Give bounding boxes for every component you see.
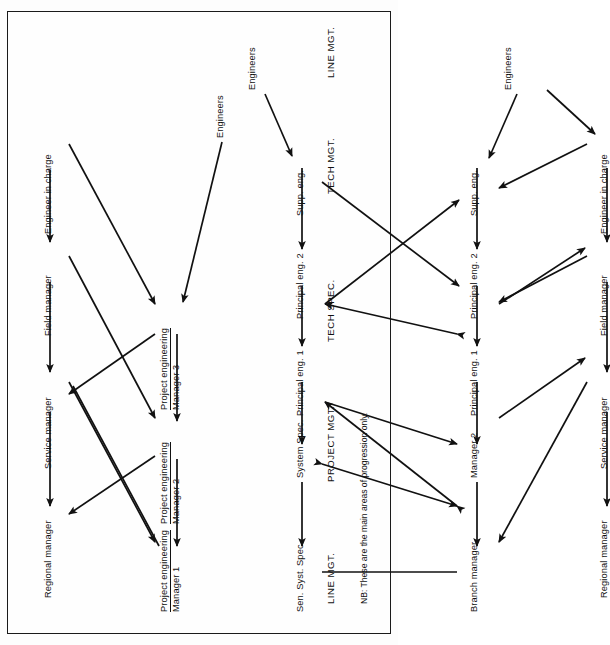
- node-label-line1: Project engineering: [159, 328, 169, 410]
- node-label-line2: Manager 1: [170, 530, 182, 612]
- node-label: Engineers: [247, 47, 257, 90]
- edge-engineers-project-to-pem3: [183, 142, 222, 302]
- node-label: Engineers: [503, 47, 513, 90]
- node-engineer-in-charge-bottom[interactable]: Engineer in charge: [599, 154, 610, 234]
- node-label: Field manager: [43, 275, 53, 336]
- node-sen-syst-spec[interactable]: Sen. Syst. Spec.: [295, 542, 306, 612]
- edge-prineng2-cross-e: [325, 200, 459, 304]
- node-engineers-tech[interactable]: Engineers: [247, 47, 258, 90]
- figure-note: NB: These are the main areas of progress…: [359, 413, 369, 604]
- node-regional-manager-top[interactable]: Regional manager: [43, 520, 54, 598]
- edge-prineng1-cross-c: [325, 402, 457, 444]
- node-principal-eng-1-tech-spec[interactable]: Principal eng. 1: [295, 350, 306, 416]
- edge-engineers-tech-to-suppengts: [265, 94, 292, 156]
- node-label-line1: Project engineering: [159, 442, 169, 524]
- node-project-engineering-manager-2[interactable]: Project engineering Manager 2: [159, 442, 182, 524]
- node-label: Service manager: [43, 397, 53, 469]
- node-label: Principal eng. 1: [469, 350, 479, 416]
- node-label: Supp. eng.: [295, 170, 305, 216]
- edge-engineersb-to-eic2: [547, 90, 595, 134]
- node-label: Supp. eng.: [469, 170, 479, 216]
- edge-sysspec-manager2-cross-a: [322, 464, 457, 506]
- edge-pem1-to-service1: [73, 386, 159, 546]
- node-label-line1: Project engineering: [159, 530, 169, 612]
- node-engineer-in-charge-top[interactable]: Engineer in charge: [43, 154, 54, 234]
- column-header-tech-mgt: TECH MGT.: [325, 138, 336, 194]
- node-label: Principal eng. 2: [469, 253, 479, 319]
- node-regional-manager-bottom[interactable]: Regional manager: [599, 520, 610, 598]
- node-label: System Spec.: [295, 419, 305, 478]
- node-service-manager-top[interactable]: Service manager: [43, 397, 54, 469]
- node-manager-2[interactable]: Manager 2: [469, 433, 480, 478]
- column-header-line-mgt-bottom: LINE MGT.: [325, 27, 336, 78]
- column-header-label: TECH MGT.: [325, 138, 336, 194]
- node-supp-eng-tech-mgt[interactable]: Supp. eng.: [469, 170, 480, 216]
- node-label: Regional manager: [43, 520, 53, 598]
- node-principal-eng-2-tech-spec[interactable]: Principal eng. 2: [295, 253, 306, 319]
- node-project-engineering-manager-3[interactable]: Project engineering Manager 3: [159, 328, 182, 410]
- node-label: Field manager: [599, 275, 609, 336]
- edge-service1-to-pem1: [69, 382, 155, 542]
- node-label-line2: Manager 3: [170, 328, 182, 410]
- node-field-manager-bottom[interactable]: Field manager: [599, 275, 610, 336]
- node-label: Engineer in charge: [43, 154, 53, 234]
- node-system-spec[interactable]: System Spec.: [295, 419, 306, 478]
- node-label-line2: Manager 2: [170, 442, 182, 524]
- node-principal-eng-1-tech-mgt[interactable]: Principal eng. 1: [469, 350, 480, 416]
- node-label: Engineer in charge: [599, 154, 609, 234]
- column-header-label: LINE MGT.: [325, 27, 336, 78]
- node-label: Manager 2: [469, 433, 479, 478]
- edge-service2-to-branch: [499, 382, 587, 542]
- column-header-label: LINE MGT.: [325, 553, 336, 604]
- node-principal-eng-2-tech-mgt[interactable]: Principal eng. 2: [469, 253, 480, 319]
- edge-eic2-to-suppengtm: [499, 144, 587, 188]
- node-label: Principal eng. 2: [295, 253, 305, 319]
- rotated-diagram-stage: Regional manager Service manager Field m…: [7, 11, 391, 634]
- edge-manager2-prineng1-cross-b: [325, 402, 457, 506]
- node-project-engineering-manager-1[interactable]: Project engineering Manager 1: [159, 530, 182, 612]
- node-engineers-project[interactable]: Engineers: [215, 95, 226, 138]
- node-label: Sen. Syst. Spec.: [295, 542, 305, 612]
- edge-prineng2tm-to-field2: [499, 248, 585, 304]
- column-header-label: TECH SPEC.: [325, 279, 336, 342]
- node-label: Principal eng. 1: [295, 350, 305, 416]
- node-label: Branch manager: [469, 542, 479, 612]
- edge-pem1-up-regional1: [69, 456, 155, 514]
- figure-note-text: NB: These are the main areas of progress…: [359, 413, 369, 604]
- column-header-project-mgt: PROJECT MGT.: [325, 406, 336, 482]
- edge-suppeng-cross-f: [322, 182, 459, 286]
- edge-prineng2-cross-d: [325, 304, 457, 334]
- node-label: Regional manager: [599, 520, 609, 598]
- node-branch-manager[interactable]: Branch manager: [469, 542, 480, 612]
- column-header-label: PROJECT MGT.: [325, 406, 336, 482]
- node-field-manager-top[interactable]: Field manager: [43, 275, 54, 336]
- node-engineers-bottom[interactable]: Engineers: [503, 47, 514, 90]
- edge-pem2-up-service1: [69, 334, 155, 394]
- node-label: Engineers: [215, 95, 225, 138]
- node-label: Service manager: [599, 397, 609, 469]
- column-header-tech-spec: TECH SPEC.: [325, 279, 336, 342]
- node-service-manager-bottom[interactable]: Service manager: [599, 397, 610, 469]
- edge-engineersb-to-suppengtm: [489, 94, 517, 158]
- column-header-line-mgt-top: LINE MGT.: [325, 553, 336, 604]
- node-supp-eng-tech-spec[interactable]: Supp. eng.: [295, 170, 306, 216]
